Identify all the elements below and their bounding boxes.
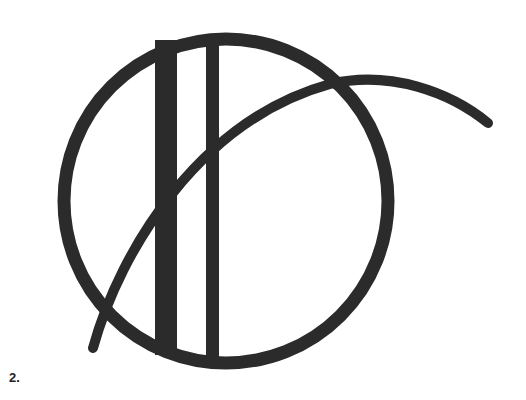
sweeping-arc-shape xyxy=(93,80,488,348)
thin-bar-shape xyxy=(206,34,219,362)
figure-label: 2. xyxy=(9,371,20,384)
ring-shape xyxy=(64,39,388,363)
logo-figure xyxy=(0,0,526,400)
figure-canvas: 2. xyxy=(0,0,526,400)
